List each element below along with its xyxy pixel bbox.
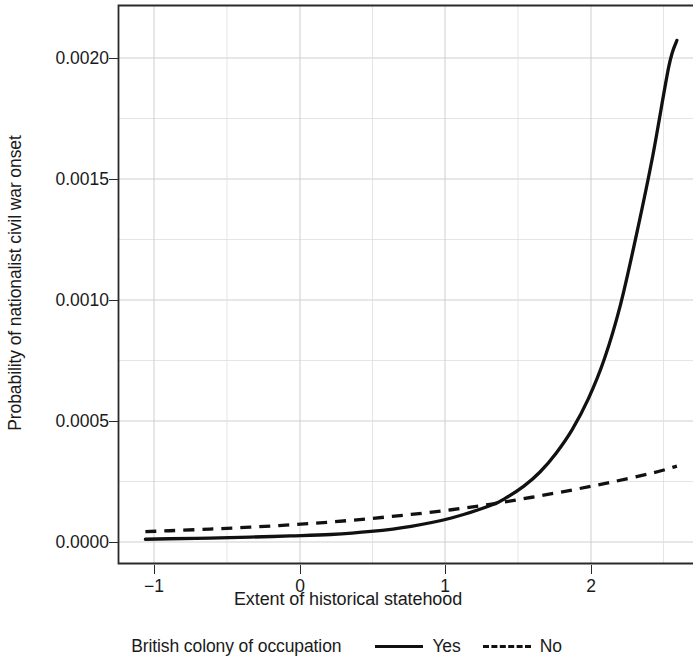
dashed-line-icon	[483, 645, 531, 648]
plot-frame	[119, 6, 693, 564]
legend-label-no: No	[540, 636, 562, 657]
solid-line-icon	[375, 645, 423, 648]
plot-area	[0, 0, 693, 661]
legend: British colony of occupation Yes No	[0, 632, 693, 660]
legend-label-yes: Yes	[432, 636, 460, 657]
chart-figure: Probability of nationalist civil war ons…	[0, 0, 693, 661]
legend-entry-no[interactable]: No	[483, 636, 562, 657]
gridlines	[118, 5, 693, 564]
series-line-yes	[145, 40, 677, 539]
legend-title: British colony of occupation	[131, 636, 341, 657]
legend-entry-yes[interactable]: Yes	[375, 636, 460, 657]
series-line-no	[145, 466, 677, 532]
